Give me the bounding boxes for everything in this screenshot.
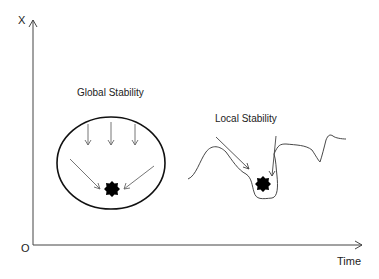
x-axis-label: Time (337, 255, 361, 267)
arrow-diag-left (70, 159, 100, 189)
stability-diagram: X O Time Global Stability Local Stabilit… (0, 0, 379, 279)
local-ball-icon (255, 176, 271, 192)
origin-label: O (21, 242, 30, 254)
global-stability-title: Global Stability (77, 87, 144, 98)
global-ball-icon (104, 181, 120, 197)
local-stability-title: Local Stability (215, 113, 277, 124)
y-axis-label: X (18, 14, 26, 26)
arrow-down (272, 136, 276, 176)
local-arrows (216, 136, 276, 176)
arrow-diag-right (124, 166, 154, 189)
arrow-diag-left (216, 137, 249, 169)
global-arrows (70, 122, 154, 189)
